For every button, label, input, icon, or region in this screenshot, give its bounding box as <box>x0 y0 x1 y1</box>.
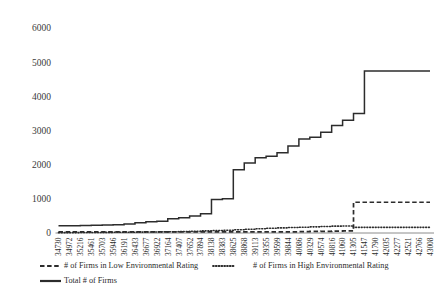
legend-label-dotted: # of Firms in High Environmental Rating <box>253 261 389 270</box>
x-tick-37652: 37652 <box>186 237 195 256</box>
y-tick-6000: 6000 <box>32 23 51 33</box>
x-tick-39844: 39844 <box>284 237 293 256</box>
series-line-dashed <box>59 202 431 232</box>
chart-container: 0100020003000400050006000 34730349723521… <box>0 0 439 305</box>
x-tick-38138: 38138 <box>207 237 216 256</box>
x-tick-41060: 41060 <box>338 237 347 256</box>
x-tick-38868: 38868 <box>240 237 249 256</box>
x-tick-39599: 39599 <box>273 237 282 256</box>
x-tick-37164: 37164 <box>164 237 173 256</box>
x-tick-35703: 35703 <box>98 237 107 256</box>
x-tick-40086: 40086 <box>295 237 304 256</box>
x-tick-40816: 40816 <box>328 237 337 256</box>
x-tick-36922: 36922 <box>153 237 162 256</box>
x-tick-42521: 42521 <box>404 237 413 256</box>
x-tick-36677: 36677 <box>142 237 151 256</box>
x-tick-39113: 39113 <box>251 237 260 256</box>
x-tick-41790: 41790 <box>371 237 380 256</box>
legend-label-dashed: # of Firms in Low Environmental Rating <box>64 261 198 270</box>
x-tick-37407: 37407 <box>175 237 184 256</box>
x-tick-37894: 37894 <box>196 237 205 256</box>
x-tick-35946: 35946 <box>109 237 118 256</box>
x-tick-40329: 40329 <box>306 237 315 256</box>
x-tick-35216: 35216 <box>76 237 85 256</box>
y-tick-5000: 5000 <box>32 58 51 68</box>
chart-series-group <box>59 71 431 233</box>
series-line-solid <box>59 71 431 226</box>
x-tick-38383: 38383 <box>218 237 227 256</box>
y-axis-tick-labels: 0100020003000400050006000 <box>32 23 51 238</box>
x-tick-38625: 38625 <box>229 237 238 256</box>
x-tick-42766: 42766 <box>415 237 424 256</box>
x-tick-40574: 40574 <box>317 237 326 256</box>
legend-label-solid: Total # of Firms <box>64 276 117 285</box>
x-tick-34730: 34730 <box>54 237 63 256</box>
y-tick-4000: 4000 <box>32 92 51 102</box>
line-chart: 0100020003000400050006000 34730349723521… <box>0 0 439 305</box>
x-tick-41547: 41547 <box>360 237 369 256</box>
y-tick-1000: 1000 <box>32 194 51 204</box>
x-tick-36191: 36191 <box>120 237 129 256</box>
x-tick-42035: 42035 <box>382 237 391 256</box>
x-tick-34972: 34972 <box>65 237 74 256</box>
y-tick-0: 0 <box>46 228 51 238</box>
x-tick-42277: 42277 <box>393 237 402 256</box>
chart-legend: # of Firms in Low Environmental Rating# … <box>40 261 389 285</box>
x-tick-35461: 35461 <box>87 237 96 256</box>
y-tick-3000: 3000 <box>32 126 51 136</box>
x-tick-43008: 43008 <box>426 237 435 256</box>
y-tick-2000: 2000 <box>32 160 51 170</box>
x-axis-tick-labels: 3473034972352163546135703359463619136433… <box>54 237 435 256</box>
x-tick-36433: 36433 <box>131 237 140 256</box>
x-tick-41305: 41305 <box>349 237 358 256</box>
x-tick-39355: 39355 <box>262 237 271 256</box>
